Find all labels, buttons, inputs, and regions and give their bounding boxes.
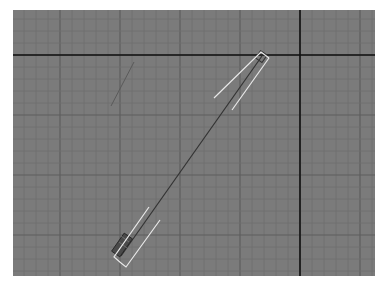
- viewport[interactable]: [13, 10, 375, 276]
- selection-bracket-top: [214, 52, 269, 110]
- viewport-canvas[interactable]: [13, 10, 375, 276]
- long-diagonal-object[interactable]: [121, 56, 262, 256]
- grid: [13, 10, 375, 276]
- selection-bracket-bottom: [114, 207, 160, 267]
- short-diagonal-line[interactable]: [111, 62, 134, 106]
